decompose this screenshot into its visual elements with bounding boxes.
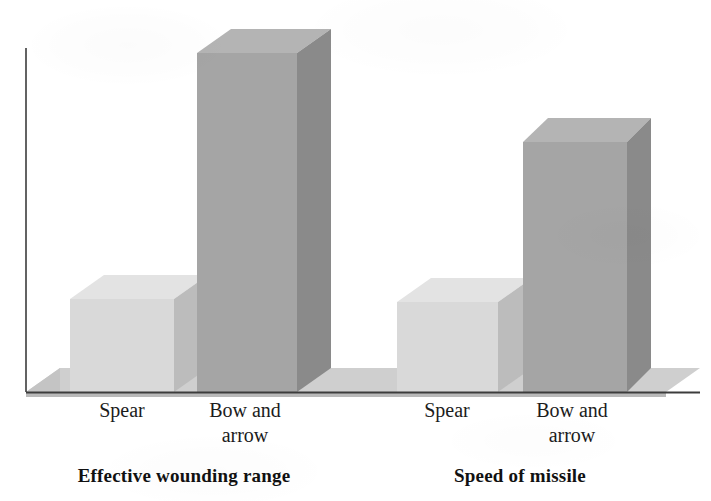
group-title-effective-wounding-range: Effective wounding range	[14, 464, 354, 487]
bar-right-bow-side	[627, 118, 651, 392]
bar-left-spear[interactable]	[70, 275, 208, 392]
bar-left-bow-front	[197, 53, 297, 392]
floor-left-wedge	[26, 368, 60, 392]
bar-right-spear[interactable]	[397, 278, 532, 392]
bar-chart-figure: Spear Bow and arrow Spear Bow and arrow …	[0, 0, 711, 501]
bar-left-bow-side	[297, 29, 331, 392]
group-title-speed-of-missile: Speed of missile	[370, 464, 670, 487]
category-label-right-spear: Spear	[392, 398, 502, 423]
bar-right-bow-front	[523, 142, 627, 392]
category-label-left-spear: Spear	[62, 398, 182, 423]
bar-left-bow-and-arrow[interactable]	[197, 29, 331, 392]
category-label-right-bow-and-arrow: Bow and arrow	[512, 398, 632, 448]
bar-right-bow-and-arrow[interactable]	[523, 118, 651, 392]
category-label-left-bow-and-arrow: Bow and arrow	[185, 398, 305, 448]
bar-left-spear-front	[70, 299, 174, 392]
bar-right-spear-front	[397, 302, 498, 392]
